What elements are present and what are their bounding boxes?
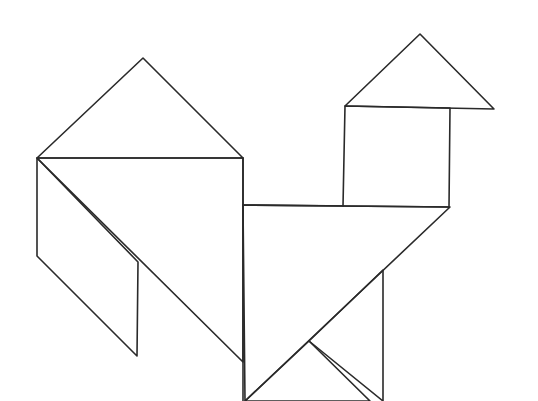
tail-parallelogram — [37, 158, 138, 356]
body-large-triangle — [37, 158, 243, 362]
body-top-edge — [243, 205, 343, 206]
tangram-rooster-figure — [0, 0, 538, 401]
neck-square — [343, 106, 450, 207]
tail-large-triangle — [37, 58, 243, 158]
head-triangle — [345, 34, 494, 109]
leg-right-triangle — [309, 270, 383, 401]
leg-small-triangle — [245, 341, 370, 401]
